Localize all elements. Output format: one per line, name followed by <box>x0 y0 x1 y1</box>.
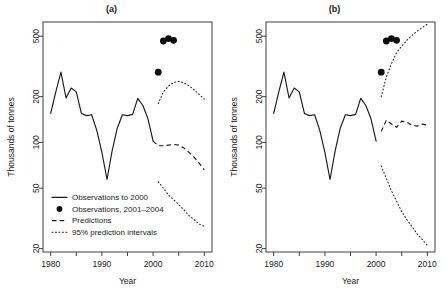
chart-panel-a: (a) 20501002005001980199020002010YearTho… <box>0 0 223 293</box>
x-tick-label: 1990 <box>92 259 111 269</box>
x-tick-label: 2010 <box>418 259 437 269</box>
x-axis-title: Year <box>342 276 359 286</box>
observation-point <box>393 37 400 44</box>
legend-label: Observations, 2001–2004 <box>72 205 164 214</box>
y-tick-label: 100 <box>254 135 264 149</box>
y-tick-label: 200 <box>31 89 41 103</box>
prediction-interval-line <box>158 81 204 103</box>
y-axis-title: Thousands of tonnes <box>6 97 16 176</box>
prediction-interval-line <box>158 182 204 227</box>
prediction-interval-line <box>381 166 427 245</box>
y-tick-label: 100 <box>31 135 41 149</box>
y-tick-label: 50 <box>254 183 264 193</box>
y-tick-label: 200 <box>254 89 264 103</box>
y-axis-title: Thousands of tonnes <box>229 97 239 176</box>
y-tick-label: 50 <box>31 183 41 193</box>
legend-label: Observations to 2000 <box>72 193 149 202</box>
predictions-line <box>381 120 427 131</box>
panel-b-plot: 20501002005001980199020002010YearThousan… <box>223 0 446 293</box>
x-tick-label: 2010 <box>195 259 214 269</box>
observation-point <box>155 69 162 76</box>
y-tick-label: 500 <box>31 29 41 43</box>
observation-point <box>378 69 385 76</box>
x-axis-title: Year <box>119 276 136 286</box>
y-tick-label: 500 <box>254 29 264 43</box>
plot-frame <box>43 22 212 252</box>
x-tick-label: 1990 <box>315 259 334 269</box>
x-tick-label: 2000 <box>367 259 386 269</box>
prediction-interval-line <box>381 24 427 97</box>
y-tick-label: 20 <box>31 244 41 254</box>
legend-label: 95% prediction intervals <box>72 228 157 237</box>
chart-panel-b: (b) 20501002005001980199020002010YearTho… <box>223 0 446 293</box>
legend-marker-observations-2001-2004 <box>57 206 63 212</box>
observation-point <box>170 37 177 44</box>
observations-line <box>274 72 376 179</box>
x-tick-label: 1980 <box>264 259 283 269</box>
figure-container: (a) 20501002005001980199020002010YearTho… <box>0 0 446 293</box>
legend-label: Predictions <box>72 216 112 225</box>
x-tick-label: 2000 <box>144 259 163 269</box>
predictions-line <box>153 141 204 170</box>
panel-a-plot: 20501002005001980199020002010YearThousan… <box>0 0 223 293</box>
plot-frame <box>266 22 435 252</box>
y-tick-label: 20 <box>254 244 264 254</box>
observations-line <box>51 72 153 179</box>
x-tick-label: 1980 <box>41 259 60 269</box>
